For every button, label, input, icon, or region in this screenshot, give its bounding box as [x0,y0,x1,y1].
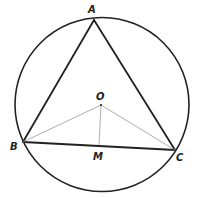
segment-oc [101,105,175,150]
vertex-label-a: A [87,4,96,15]
circumscribed-circle [15,18,189,192]
center-label-o: O [96,91,105,102]
segment-om [99,105,101,146]
segment-ac [94,20,175,150]
vertex-label-b: B [10,141,18,152]
point-m [98,145,100,147]
segments-group [23,20,175,150]
point-o [100,104,102,106]
midpoint-label-m: M [93,151,103,162]
segment-ab [23,20,94,142]
vertex-label-c: C [176,152,184,163]
geometry-diagram: A B C O M [0,0,197,198]
